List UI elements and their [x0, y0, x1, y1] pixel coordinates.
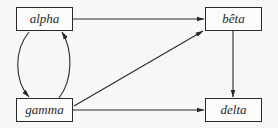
node-beta-label: bêta	[222, 11, 244, 27]
node-alpha-label: alpha	[30, 11, 60, 27]
edge-alpha-to-gamma	[18, 32, 29, 97]
node-delta: delta	[205, 98, 262, 122]
node-alpha: alpha	[16, 7, 73, 31]
node-gamma: gamma	[16, 98, 73, 122]
edge-gamma-to-beta	[74, 31, 203, 106]
node-beta: bêta	[205, 7, 262, 31]
diagram-canvas: alpha bêta gamma delta	[0, 0, 278, 128]
node-gamma-label: gamma	[25, 102, 63, 118]
edge-gamma-to-alpha	[59, 32, 70, 98]
node-delta-label: delta	[221, 102, 247, 118]
